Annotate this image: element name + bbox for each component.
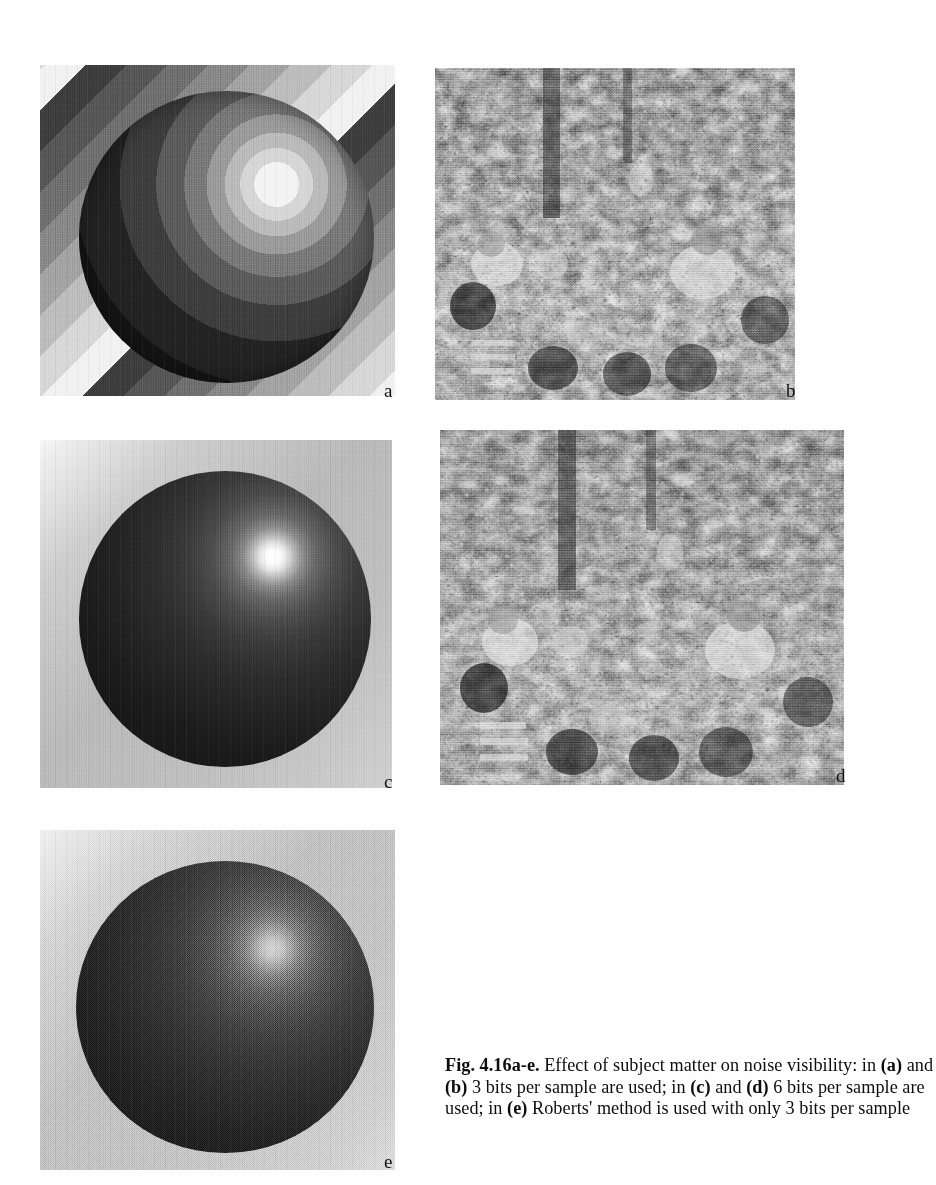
panel-label-b: b — [786, 381, 796, 400]
panel-label-a: a — [384, 381, 392, 400]
panel-label-c: c — [384, 772, 392, 791]
figure-page: a — [0, 0, 936, 1185]
panel-a-sphere-edge-shading — [79, 91, 374, 382]
figure-panel-a — [40, 65, 395, 396]
panel-label-e: e — [384, 1152, 392, 1171]
figure-panel-b — [435, 68, 795, 400]
caption-text-run: 3 bits per sample are used; in — [467, 1077, 690, 1097]
panel-c-sphere-edge-shading — [79, 471, 371, 767]
figure-caption: Fig. 4.16a-e. Effect of subject matter o… — [445, 1055, 935, 1120]
figure-panel-c — [40, 440, 392, 788]
caption-bold-run: (a) — [881, 1055, 902, 1075]
caption-bold-run: (e) — [507, 1098, 527, 1118]
panel-d-halftone-texture — [440, 430, 844, 785]
caption-text-run: Effect of subject matter on noise visibi… — [540, 1055, 881, 1075]
panel-b-halftone-texture — [435, 68, 795, 400]
caption-bold-run: (d) — [746, 1077, 768, 1097]
caption-bold-run: (c) — [690, 1077, 710, 1097]
caption-bold-run: Fig. 4.16a-e. — [445, 1055, 540, 1075]
figure-panel-d — [440, 430, 844, 785]
caption-text-run: and — [902, 1055, 933, 1075]
caption-text-run: Roberts' method is used with only 3 bits… — [527, 1098, 910, 1118]
caption-bold-run: (b) — [445, 1077, 467, 1097]
panel-label-d: d — [836, 766, 846, 785]
panel-e-roberts-noise-texture — [40, 830, 395, 1170]
figure-caption-text: Fig. 4.16a-e. Effect of subject matter o… — [445, 1055, 933, 1118]
caption-text-run: and — [711, 1077, 747, 1097]
figure-panel-e — [40, 830, 395, 1170]
